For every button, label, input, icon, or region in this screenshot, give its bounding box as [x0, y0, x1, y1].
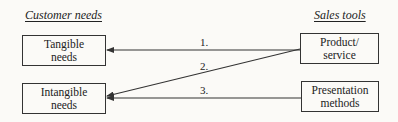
arrow-label-2: 2. — [200, 60, 208, 72]
arrow-layer — [0, 0, 398, 122]
arrow-label-1: 1. — [200, 36, 208, 48]
arrow-label-3: 3. — [200, 84, 208, 96]
